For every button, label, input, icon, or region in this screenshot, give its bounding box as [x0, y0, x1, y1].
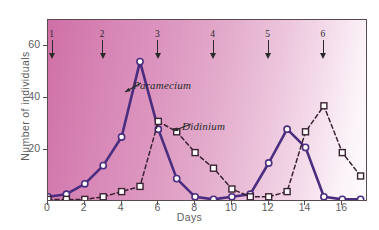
x-tick-label-8: 8 — [184, 201, 204, 213]
data-point-didinium-11 — [247, 194, 253, 200]
x-tick-label-14: 14 — [294, 201, 314, 213]
data-point-didinium-4 — [119, 189, 125, 195]
data-point-paramecium-8 — [192, 194, 198, 200]
x-tick-label-6: 6 — [147, 201, 167, 213]
series-label-paramecium: Paramecium — [133, 79, 191, 91]
data-point-didinium-13 — [284, 189, 290, 195]
y-tick-mark-40 — [43, 97, 47, 98]
data-point-didinium-14 — [303, 129, 309, 135]
y-axis-label: Number of individuals — [19, 36, 31, 176]
y-tick-label-20: 20 — [18, 142, 40, 154]
data-point-paramecium-2 — [82, 181, 88, 187]
x-tick-label-4: 4 — [111, 201, 131, 213]
data-point-didinium-9 — [211, 165, 217, 171]
immigration-arrow-label-1: 1 — [46, 29, 58, 39]
y-tick-label-60: 60 — [18, 38, 40, 50]
immigration-arrow-label-4: 4 — [207, 29, 219, 39]
x-tick-label-12: 12 — [258, 201, 278, 213]
data-point-didinium-8 — [192, 150, 198, 156]
data-point-didinium-1 — [63, 196, 69, 201]
data-point-paramecium-4 — [119, 134, 125, 140]
data-point-didinium-5 — [137, 183, 143, 189]
data-point-paramecium-14 — [302, 144, 308, 150]
x-tick-label-0: 0 — [37, 201, 57, 213]
arrow-head-icon — [49, 53, 55, 59]
data-point-didinium-15 — [321, 103, 327, 109]
x-tick-label-16: 16 — [331, 201, 351, 213]
data-point-didinium-12 — [266, 194, 272, 200]
y-tick-mark-60 — [43, 45, 47, 46]
x-tick-label-10: 10 — [221, 201, 241, 213]
immigration-arrow-label-6: 6 — [317, 29, 329, 39]
data-point-paramecium-3 — [100, 163, 106, 169]
data-point-paramecium-5 — [137, 59, 143, 65]
data-point-paramecium-10 — [229, 194, 235, 200]
data-point-paramecium-9 — [210, 196, 216, 201]
data-point-didinium-17 — [358, 173, 364, 179]
x-tick-label-2: 2 — [74, 201, 94, 213]
chart-canvas — [48, 20, 367, 201]
data-point-paramecium-15 — [321, 194, 327, 200]
data-point-didinium-10 — [229, 186, 235, 192]
series-label-didinium: Didinium — [182, 120, 225, 132]
chart-figure: Number of individuals Days Immigrations … — [0, 0, 379, 230]
data-point-didinium-16 — [339, 150, 345, 156]
data-point-didinium-3 — [100, 194, 106, 200]
immigration-arrow-label-2: 2 — [96, 29, 108, 39]
arrow-head-icon — [320, 53, 326, 59]
data-point-paramecium-17 — [358, 196, 364, 201]
plot-area — [47, 19, 367, 201]
data-point-didinium-6 — [155, 118, 161, 124]
arrow-head-icon — [155, 53, 161, 59]
data-point-paramecium-7 — [174, 176, 180, 182]
data-point-paramecium-13 — [284, 126, 290, 132]
arrow-head-icon — [100, 53, 106, 59]
immigration-arrow-label-5: 5 — [262, 29, 274, 39]
immigration-arrow-label-3: 3 — [151, 29, 163, 39]
y-tick-mark-20 — [43, 149, 47, 150]
arrow-head-icon — [265, 53, 271, 59]
y-tick-label-40: 40 — [18, 90, 40, 102]
arrow-head-icon — [210, 53, 216, 59]
data-point-paramecium-12 — [266, 160, 272, 166]
